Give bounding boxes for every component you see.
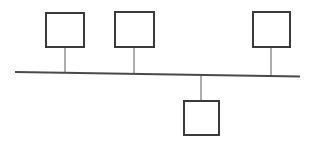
node-box-3[interactable] [253, 12, 290, 47]
bus-topology-diagram [0, 0, 312, 150]
node-box-4[interactable] [184, 101, 219, 135]
node-2[interactable] [115, 12, 154, 47]
diagram-canvas [0, 0, 312, 150]
node-box-2[interactable] [115, 12, 154, 47]
node-1[interactable] [46, 13, 84, 47]
bus-backbone-line [15, 72, 300, 77]
node-box-1[interactable] [46, 13, 84, 47]
node-4[interactable] [184, 101, 219, 135]
node-3[interactable] [253, 12, 290, 47]
